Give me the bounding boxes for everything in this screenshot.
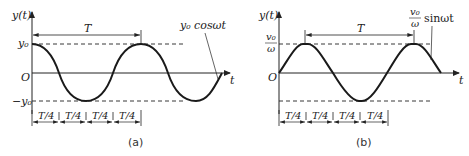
t-axis-label: t	[230, 74, 235, 87]
quarter-label-1: T/4	[38, 110, 54, 121]
curve-label-numerator: v₀	[410, 6, 420, 17]
curve-label: y₀ cosωt	[179, 19, 227, 32]
caption-a: (a)	[128, 136, 143, 149]
quarter-label-2: T/4	[65, 110, 81, 121]
curve-label-function: sinωt	[424, 12, 454, 25]
y-axis-label: y(t)	[11, 9, 31, 22]
quarter-label-3: T/4	[339, 110, 355, 121]
t-axis-label: t	[459, 74, 464, 87]
period-label: T	[357, 22, 366, 35]
figure-a: T y₀ cosωt y(t) t O y₀ −y₀ T/4 T/4 T/4 T…	[11, 9, 235, 149]
quarter-label-4: T/4	[367, 110, 383, 121]
quarter-label-1: T/4	[285, 110, 301, 121]
y-axis-label: y(t)	[258, 9, 278, 22]
period-label: T	[84, 22, 93, 35]
diagram-canvas: T y₀ cosωt y(t) t O y₀ −y₀ T/4 T/4 T/4 T…	[0, 0, 469, 156]
origin-label: O	[268, 71, 277, 84]
lower-level-label: −y₀	[12, 95, 32, 108]
quarter-label-2: T/4	[312, 110, 328, 121]
curve-label-leader	[205, 33, 218, 79]
curve-label-leader	[431, 26, 432, 60]
upper-level-label: y₀	[17, 37, 29, 50]
figure-b: T v₀ ω sinωt y(t) t O v₀ ω T/4 T/4 T/4 T…	[258, 6, 464, 149]
upper-level-label-numerator: v₀	[266, 31, 276, 42]
caption-b: (b)	[356, 136, 372, 149]
quarter-dimensions: T/4 T/4 T/4 T/4	[32, 110, 141, 126]
curve-label-denominator: ω	[411, 18, 419, 29]
upper-level-label-denominator: ω	[267, 43, 275, 54]
origin-label: O	[21, 71, 30, 84]
quarter-label-3: T/4	[92, 110, 108, 121]
quarter-label-4: T/4	[119, 110, 135, 121]
quarter-dimensions: T/4 T/4 T/4 T/4	[279, 110, 388, 126]
